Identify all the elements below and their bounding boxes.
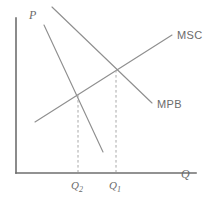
diagram-container: P Q MSC MPB Q2 Q1 <box>0 0 210 204</box>
q2-label: Q2 <box>71 179 83 194</box>
msc-label: MSC <box>177 29 203 41</box>
x-axis-label: Q <box>181 167 190 181</box>
msc-curve <box>35 35 172 122</box>
msb-curve <box>44 25 103 152</box>
supply-demand-diagram: P Q MSC MPB Q2 Q1 <box>0 0 210 204</box>
mpb-label: MPB <box>157 98 182 110</box>
y-axis-label: P <box>28 8 37 22</box>
q1-label: Q1 <box>109 179 121 194</box>
mpb-curve <box>52 7 152 103</box>
